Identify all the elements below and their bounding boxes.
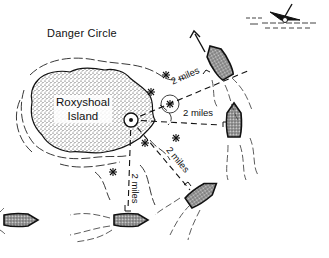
diagram-title: Danger Circle bbox=[47, 27, 117, 39]
distance-label-down: 2 miles bbox=[130, 173, 141, 203]
arrow-up-left bbox=[190, 31, 205, 52]
distance-label-right: 2 miles bbox=[183, 107, 213, 118]
island-name-line1: Roxyshoal bbox=[56, 95, 110, 109]
boat-left bbox=[4, 214, 38, 227]
boat-right bbox=[227, 103, 242, 137]
island-name-line2: Island bbox=[56, 109, 110, 123]
danger-circle-diagram: Danger Circle Roxyshoal Island 2 miles 2… bbox=[0, 0, 329, 258]
lighthouse-position-icon bbox=[124, 113, 138, 127]
boat-lower-right bbox=[184, 177, 220, 209]
boat-bottom bbox=[114, 214, 148, 227]
island-label: Roxyshoal Island bbox=[54, 95, 112, 123]
boat-upper-right bbox=[202, 42, 235, 82]
sinking-boat-icon bbox=[246, 4, 318, 28]
